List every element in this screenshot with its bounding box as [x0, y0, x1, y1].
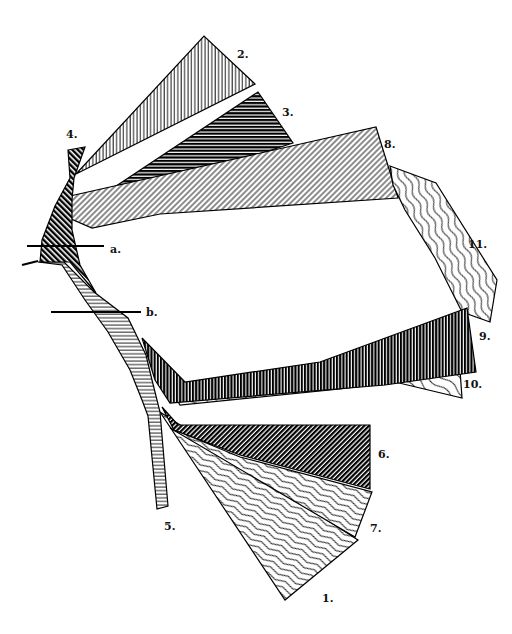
- label-6: 6.: [378, 448, 389, 461]
- fan-diagram: 1. 2. 3. 4. 5. 6. 7. 8. 9. 10. 11. a. b.: [0, 0, 512, 634]
- label-4: 4.: [66, 128, 77, 141]
- label-3: 3.: [282, 106, 293, 119]
- label-11: 11.: [468, 238, 487, 251]
- label-1: 1.: [322, 592, 333, 605]
- band-5: [38, 262, 168, 509]
- label-10: 10.: [463, 378, 482, 391]
- label-2: 2.: [237, 48, 248, 61]
- label-5: 5.: [164, 520, 175, 533]
- label-7: 7.: [370, 522, 381, 535]
- label-9: 9.: [479, 330, 490, 343]
- label-b: b.: [146, 306, 158, 319]
- label-8: 8.: [384, 138, 395, 151]
- label-a: a.: [110, 243, 121, 256]
- stub-line: [22, 261, 38, 265]
